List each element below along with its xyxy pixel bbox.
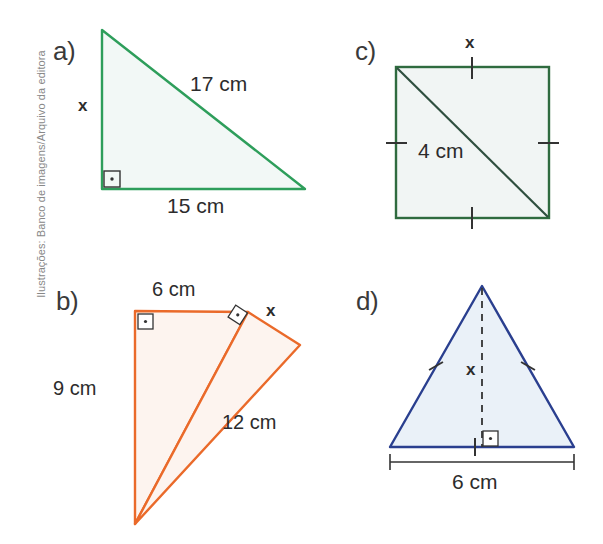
figure-b-unknown-label: x [266,301,275,321]
geometry-figures-canvas [0,0,603,544]
figure-a-triangle [102,30,305,189]
figure-a-base-label: 15 cm [167,194,224,218]
figure-label-d: d) [356,286,378,317]
figure-label-a: a) [53,36,75,67]
figure-c-diagonal-label: 4 cm [418,139,464,163]
figure-d-unknown-label: x [466,360,475,380]
figure-d-group [390,286,574,470]
figure-label-c: c) [355,36,376,67]
figure-label-b: b) [56,286,78,317]
figure-sheet: Ilustrações: Banco de imagens/Arquivo da… [0,0,603,544]
figure-b-right-angle-marker-left [138,314,153,329]
figure-b-left-label: 9 cm [53,377,96,400]
figure-c-group [386,57,559,229]
figure-d-right-angle-marker [483,431,498,446]
figure-d-base-label: 6 cm [452,470,498,494]
figure-b-top-label: 6 cm [152,278,195,301]
figure-a-unknown-label: x [78,96,87,116]
figure-c-unknown-label: x [465,33,474,53]
figure-b-slant-label: 12 cm [222,411,276,434]
figure-a-hypotenuse-label: 17 cm [190,72,247,96]
figure-a-group [102,30,305,189]
figure-d-base-dimension-line [390,454,574,470]
